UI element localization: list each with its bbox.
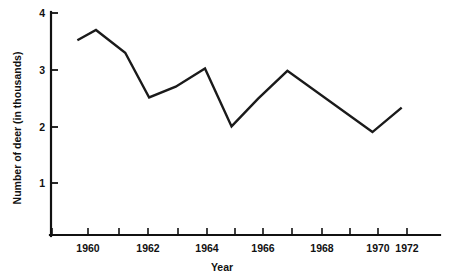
x-axis-title: Year [211, 261, 233, 273]
x-tick-label-1972: 1972 [395, 242, 419, 254]
x-tick-label-1966: 1966 [251, 242, 275, 254]
y-tick-label-1: 1 [39, 177, 45, 189]
x-tick-label-1962: 1962 [136, 242, 160, 254]
y-tick-label-4: 4 [39, 7, 45, 19]
x-tick-label-1970: 1970 [366, 242, 390, 254]
line-chart: Number of deer (in thousands) 4 3 2 1 [0, 0, 451, 280]
x-tick-label-1960: 1960 [76, 242, 100, 254]
y-tick-label-3: 3 [39, 64, 45, 76]
chart-container: Number of deer (in thousands) 4 3 2 1 [0, 0, 451, 280]
data-series-line [77, 30, 401, 132]
y-tick-label-2: 2 [39, 121, 45, 133]
y-axis-title: Number of deer (in thousands) [11, 52, 23, 205]
x-tick-label-1968: 1968 [310, 242, 334, 254]
x-tick-label-1964: 1964 [195, 242, 219, 254]
